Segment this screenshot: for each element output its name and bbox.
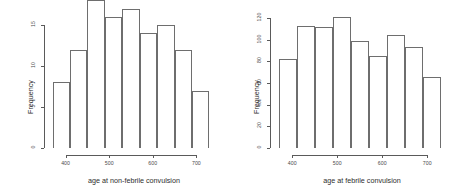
y-axis-tick-label: 80 [256, 54, 262, 66]
histogram-bar [53, 82, 70, 148]
y-axis-tick-label: 0 [30, 141, 36, 153]
histogram-bar [405, 47, 423, 148]
histogram-bar [333, 17, 351, 148]
histogram-bar [175, 50, 192, 148]
x-axis-tick [196, 155, 197, 158]
x-axis-tick [427, 155, 428, 158]
x-axis-tick-label: 500 [327, 160, 347, 166]
histogram-bar [122, 9, 139, 148]
x-axis-tick-label: 600 [372, 160, 392, 166]
y-axis-tick-label: 15 [30, 18, 36, 30]
y-axis-tick [41, 107, 44, 108]
x-axis-tick-label: 700 [186, 160, 206, 166]
x-axis-tick [292, 155, 293, 158]
x-axis-line [66, 155, 197, 156]
y-axis-tick [267, 83, 270, 84]
y-axis-tick [41, 66, 44, 67]
histogram-bar [105, 17, 122, 148]
histogram-bar [387, 35, 405, 148]
y-axis-line [44, 25, 45, 148]
y-axis-tick [267, 61, 270, 62]
figure-canvas: 051015400500600700age at non-febrile con… [0, 0, 476, 196]
x-axis-tick-label: 700 [417, 160, 437, 166]
y-axis-tick [41, 148, 44, 149]
x-axis-tick [337, 155, 338, 158]
y-axis-line [270, 18, 271, 148]
x-axis-tick [109, 155, 110, 158]
y-axis-tick [267, 40, 270, 41]
y-axis-tick-label: 100 [256, 33, 262, 45]
x-axis-tick-label: 400 [282, 160, 302, 166]
y-axis-tick [267, 18, 270, 19]
x-axis-title: age at non-febrile convulsion [54, 176, 214, 185]
x-axis-line [292, 155, 427, 156]
y-axis-title: Frequency [26, 80, 35, 114]
y-axis-tick [267, 148, 270, 149]
x-axis-tick-label: 400 [56, 160, 76, 166]
histogram-bar [70, 50, 87, 148]
y-axis-tick-label: 10 [30, 59, 36, 71]
x-axis-tick [153, 155, 154, 158]
x-axis-tick-label: 500 [99, 160, 119, 166]
y-axis-tick-label: 120 [256, 11, 262, 23]
histogram-bar [140, 33, 157, 148]
histogram-bar [369, 56, 387, 148]
y-axis-tick-label: 0 [256, 141, 262, 153]
histogram-bar [315, 27, 333, 148]
histogram-bar [351, 41, 369, 148]
histogram-bar [279, 59, 297, 148]
histogram-bar [192, 91, 209, 148]
histogram-bar [297, 26, 315, 148]
y-axis-tick [41, 25, 44, 26]
x-axis-tick-label: 600 [143, 160, 163, 166]
panel-non-febrile-histogram: 051015400500600700age at non-febrile con… [0, 0, 238, 196]
x-axis-title: age at febrile convulsion [282, 176, 442, 185]
x-axis-tick [382, 155, 383, 158]
panel-febrile-histogram: 020406080100120400500600700age at febril… [238, 0, 476, 196]
x-axis-tick [66, 155, 67, 158]
histogram-bar [87, 0, 104, 148]
histogram-bar [423, 77, 441, 149]
y-axis-tick-label: 20 [256, 119, 262, 131]
y-axis-title: Frequency [252, 80, 261, 114]
y-axis-tick [267, 105, 270, 106]
histogram-bar [157, 25, 174, 148]
y-axis-tick [267, 126, 270, 127]
